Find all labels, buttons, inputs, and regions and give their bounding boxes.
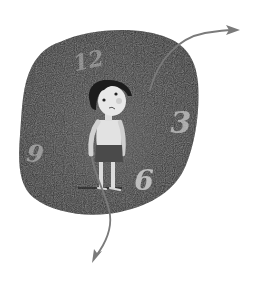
clock-numeral-3: 3 [171, 105, 192, 140]
child-right-eye [114, 92, 117, 95]
child-left-eye [102, 98, 105, 101]
illustration-canvas: 12369 [0, 0, 262, 284]
child-cheek [116, 98, 122, 104]
clock-numeral-6: 6 [134, 164, 153, 197]
clock-illustration: 12369 [0, 0, 262, 284]
child-shorts [95, 145, 123, 162]
child-right-leg [111, 160, 115, 188]
child-torso [96, 120, 121, 146]
